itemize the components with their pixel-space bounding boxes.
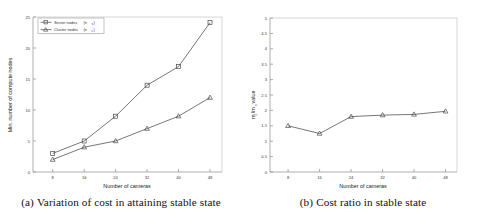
chart-a-svg: 0 5 10 15 20 25 8 16 24	[0, 0, 242, 190]
chart-a-xtick-16: 16	[82, 175, 87, 180]
figure-panel-b: 0 0.5 1 1.5 2 2.5 3 3.5 4 4.5 5	[242, 0, 484, 224]
figure-caption-b-tag: (b)	[300, 196, 313, 208]
chart-a-ytick-10: 10	[25, 108, 30, 113]
chart-b-xtick-32: 32	[380, 175, 385, 180]
chart-b-axes	[270, 18, 457, 172]
chart-a-legend-label-server: Server nodes	[54, 20, 77, 25]
chart-b-series-ratio	[286, 109, 448, 135]
chart-b-y-axis-title-tail: value	[250, 91, 256, 104]
chart-b-ytick-5: 5	[265, 16, 268, 21]
figure-panel-a: 0 5 10 15 20 25 8 16 24	[0, 0, 242, 224]
figure-caption-a: (a)Variation of cost in attaining stable…	[0, 196, 242, 208]
chart-b-xtick-40: 40	[412, 175, 417, 180]
chart-b-ytick-0: 0	[265, 170, 268, 175]
chart-b-ytick-4: 4	[265, 46, 268, 51]
chart-b-xtick-24: 24	[349, 175, 354, 180]
chart-a-xtick-8: 8	[52, 175, 55, 180]
chart-b-y-axis-title: m s /m c value	[250, 91, 258, 119]
chart-a-x-ticks: 8 16 24 32 40 48	[52, 169, 213, 180]
figure-caption-b-text: Cost ratio in stable state	[316, 196, 426, 208]
figure-container: 0 5 10 15 20 25 8 16 24	[0, 0, 484, 224]
chart-b-xtick-16: 16	[317, 175, 322, 180]
chart-b-x-axis-title: Number of cameras	[339, 183, 387, 189]
chart-a-ytick-0: 0	[28, 170, 31, 175]
figure-caption-a-text: Variation of cost in attaining stable st…	[37, 196, 221, 208]
chart-a-ytick-15: 15	[25, 77, 30, 82]
chart-b-ytick-2: 2	[265, 108, 268, 113]
chart-a-y-axis-title: Min. number of compute nodes	[7, 58, 13, 133]
chart-b-ytick-0p5: 0.5	[261, 154, 267, 159]
chart-a-xtick-48: 48	[208, 175, 213, 180]
chart-a-y-ticks: 0 5 10 15 20 25	[25, 15, 36, 175]
chart-a-ytick-25: 25	[25, 15, 30, 20]
chart-a-legend: Server nodes (n s ) Cluster nodes (n c )	[38, 18, 104, 34]
chart-a-legend-sym-cluster-open: (n	[84, 27, 87, 32]
chart-b-ytick-4p5: 4.5	[261, 31, 267, 36]
chart-b-x-ticks: 8 16 24 32 40 48	[287, 169, 449, 180]
plot-a: 0 5 10 15 20 25 8 16 24	[0, 0, 242, 190]
chart-a-x-axis-title: Number of cameras	[103, 183, 151, 189]
chart-b-ytick-3: 3	[265, 77, 268, 82]
chart-a-series-cluster-nodes	[50, 95, 212, 161]
plot-b: 0 0.5 1 1.5 2 2.5 3 3.5 4 4.5 5	[242, 0, 484, 190]
chart-a-xtick-32: 32	[145, 175, 150, 180]
chart-b-ytick-1p5: 1.5	[261, 123, 267, 128]
chart-a-xtick-24: 24	[113, 175, 118, 180]
figure-caption-a-tag: (a)	[21, 196, 34, 208]
figure-caption-b: (b)Cost ratio in stable state	[242, 196, 484, 208]
chart-b-svg: 0 0.5 1 1.5 2 2.5 3 3.5 4 4.5 5	[242, 0, 484, 190]
chart-b-y-axis-title-slash: /m	[250, 107, 256, 113]
chart-b-y-ticks: 0 0.5 1 1.5 2 2.5 3 3.5 4 4.5 5	[261, 16, 273, 175]
chart-b-ytick-2p5: 2.5	[261, 93, 267, 98]
chart-a-axes	[33, 17, 222, 172]
chart-a-legend-label-cluster: Cluster nodes	[54, 27, 78, 32]
chart-b-ytick-3p5: 3.5	[261, 62, 267, 67]
chart-a-ytick-5: 5	[28, 139, 31, 144]
chart-b-xtick-48: 48	[443, 175, 448, 180]
chart-b-xtick-8: 8	[287, 175, 290, 180]
chart-a-legend-sym-server-open: (n	[84, 20, 87, 25]
chart-a-xtick-40: 40	[176, 175, 181, 180]
chart-b-ytick-1: 1	[265, 139, 268, 144]
chart-a-ytick-20: 20	[25, 46, 30, 51]
